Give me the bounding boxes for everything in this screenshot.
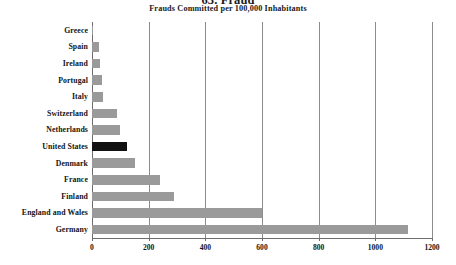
bar-row [92,188,432,205]
x-tick-label-600: 600 [237,243,287,252]
category-label-portugal: Portugal [0,76,88,85]
bar-france [92,175,160,185]
x-tick-label-800: 800 [294,243,344,252]
bar-england-and-wales [92,208,262,218]
bar-row [92,72,432,89]
bar-row [92,138,432,155]
bar-greece [92,26,93,36]
bar-row [92,39,432,56]
category-label-spain: Spain [0,42,88,51]
category-axis-labels: GreeceSpainIrelandPortugalItalySwitzerla… [0,22,88,238]
x-tick-label-1200: 1200 [407,243,456,252]
gridline-1200 [432,22,433,238]
bar-germany [92,225,408,235]
category-label-switzerland: Switzerland [0,109,88,118]
bar-united-states [92,142,127,152]
category-label-england-and-wales: England and Wales [0,208,88,217]
bar-row [92,55,432,72]
x-tick-mark-0 [92,238,93,241]
bar-row [92,88,432,105]
x-tick-mark-1000 [375,238,376,241]
bar-row [92,22,432,39]
x-tick-label-400: 400 [180,243,230,252]
x-tick-mark-1200 [432,238,433,241]
category-label-germany: Germany [0,225,88,234]
bar-italy [92,92,103,102]
bar-ireland [92,59,100,69]
x-tick-mark-800 [319,238,320,241]
fraud-bar-chart: 63. Fraud Frauds Committed per 100,000 I… [0,0,456,265]
category-label-ireland: Ireland [0,59,88,68]
bar-row [92,205,432,222]
chart-subtitle: Frauds Committed per 100,000 Inhabitants [0,4,456,13]
bar-row [92,172,432,189]
category-label-france: France [0,175,88,184]
category-label-italy: Italy [0,92,88,101]
bar-switzerland [92,109,117,119]
category-label-denmark: Denmark [0,159,88,168]
category-label-united-states: United States [0,142,88,151]
bars-layer [92,22,432,238]
x-tick-mark-400 [205,238,206,241]
bar-spain [92,42,99,52]
bar-row [92,221,432,238]
x-tick-label-1000: 1000 [350,243,400,252]
x-tick-label-200: 200 [124,243,174,252]
bar-portugal [92,75,102,85]
category-label-netherlands: Netherlands [0,125,88,134]
x-tick-mark-600 [262,238,263,241]
bar-finland [92,192,174,202]
plot-area [92,22,432,238]
bar-netherlands [92,125,120,135]
bar-row [92,122,432,139]
x-tick-mark-200 [149,238,150,241]
bar-row [92,155,432,172]
bar-denmark [92,158,135,168]
bar-row [92,105,432,122]
category-label-greece: Greece [0,26,88,35]
category-label-finland: Finland [0,192,88,201]
x-tick-label-0: 0 [67,243,117,252]
